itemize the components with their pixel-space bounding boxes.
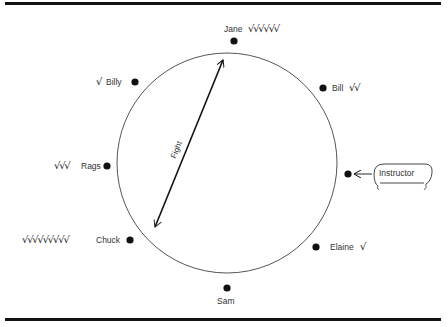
fight-arrow [155,60,223,227]
participant-label-jane: Jane [224,25,242,34]
participant-checks-bill: √√ [349,83,359,93]
group-circle [117,53,337,273]
participant-label-billy: Billy [106,78,122,87]
instructor-bubble-curl-left [377,186,379,190]
participant-dot-bill [319,84,326,91]
instructor-label: Instructor [379,169,414,178]
participant-checks-rags: √√√ [54,161,70,171]
participant-label-bill: Bill [332,84,343,93]
participant-checks-jane: √√√√√√ [248,24,279,34]
participant-dot-chuck [126,236,133,243]
instructor-bubble-curl-right [424,184,426,190]
participant-label-rags: Rags [81,162,101,171]
participant-dot-rags [103,162,110,169]
participant-label-elaine: Elaine [330,243,354,252]
participant-dot-jane [230,37,237,44]
participant-label-chuck: Chuck [96,236,120,245]
participant-dot-billy [131,78,138,85]
participant-dot-instructor-spot [344,170,351,177]
participant-dot-sam [223,284,230,291]
participant-checks-chuck: √√√√√√√√√ [22,235,69,245]
participant-checks-billy: √ [96,77,101,87]
participant-checks-elaine: √ [360,242,365,252]
participant-label-sam: Sam [217,297,234,306]
participant-dot-elaine [312,243,319,250]
